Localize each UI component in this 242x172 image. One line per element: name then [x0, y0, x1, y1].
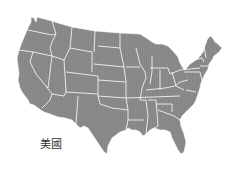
us-states-map [0, 0, 242, 172]
us-outline [17, 17, 222, 154]
country-label: 美國 [40, 135, 62, 151]
